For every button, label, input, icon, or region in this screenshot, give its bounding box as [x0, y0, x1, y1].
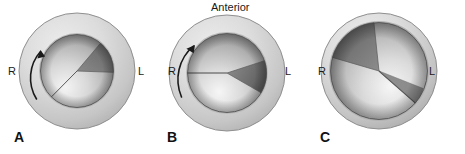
- panel-c-right-side-label: R: [318, 66, 326, 77]
- panel-c-letter: C: [320, 130, 330, 144]
- panel-c-left-side-label: L: [429, 66, 435, 77]
- panel-a: R L A: [0, 0, 155, 154]
- sphere-edge-shading-a: [41, 35, 114, 108]
- panel-a-left-side-label: L: [138, 66, 144, 77]
- panel-b-letter: B: [167, 130, 177, 144]
- panel-b: R L B: [150, 0, 305, 154]
- panel-b-right-side-label: R: [168, 66, 176, 77]
- figure-container: R L A: [0, 0, 465, 154]
- panel-c-illustration: [307, 0, 462, 154]
- panel-b-left-side-label: L: [285, 66, 291, 77]
- sphere-edge-shading-b: [188, 34, 267, 113]
- panel-c: R L C: [307, 0, 462, 154]
- sphere-edge-shading-c: [331, 23, 428, 120]
- panel-a-right-side-label: R: [8, 66, 16, 77]
- panel-a-letter: A: [14, 130, 24, 144]
- anterior-label: Anterior: [211, 2, 250, 13]
